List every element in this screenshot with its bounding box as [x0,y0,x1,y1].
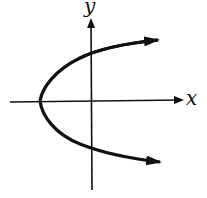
x-axis [10,100,182,102]
y-axis-label: y [84,0,95,16]
graph-svg [0,0,207,198]
y-axis [91,20,92,190]
x-axis-label: x [186,88,197,108]
parabola-diagram: y x [0,0,207,198]
